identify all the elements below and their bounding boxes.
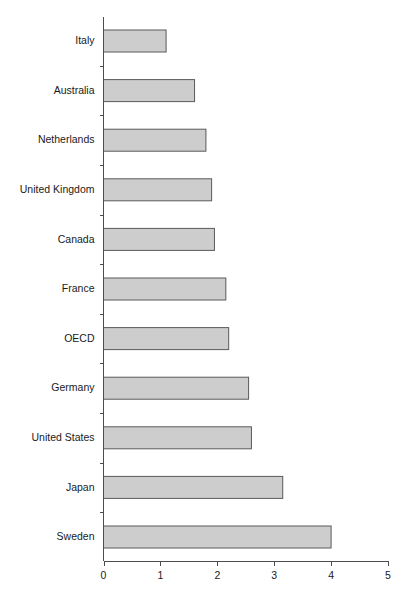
category-label-united-states: United States [31,431,94,443]
bar-japan [104,476,283,498]
bar-united-kingdom [104,179,212,201]
bars-group [104,30,332,548]
x-axis-tick-labels: 012345 [101,569,392,581]
category-label-italy: Italy [75,34,95,46]
x-tick-label-5: 5 [385,569,391,581]
bar-france [104,278,226,300]
chart-canvas: ItalyAustraliaNetherlandsUnited KingdomC… [0,0,408,595]
category-label-united-kingdom: United Kingdom [20,183,95,195]
bar-sweden [104,526,332,548]
bar-netherlands [104,129,206,151]
x-tick-label-4: 4 [328,569,334,581]
category-label-netherlands: Netherlands [38,133,95,145]
y-axis-tick-marks [100,67,104,513]
x-tick-label-1: 1 [157,569,163,581]
bar-italy [104,30,167,52]
bar-united-states [104,427,252,449]
bar-germany [104,377,249,399]
category-labels-group: ItalyAustraliaNetherlandsUnited KingdomC… [20,34,95,542]
category-label-canada: Canada [58,233,95,245]
category-label-oecd: OECD [64,332,95,344]
category-label-sweden: Sweden [57,530,95,542]
x-tick-label-0: 0 [101,569,107,581]
x-tick-label-3: 3 [271,569,277,581]
bar-australia [104,80,195,102]
bar-canada [104,228,215,250]
category-label-japan: Japan [66,481,95,493]
category-label-germany: Germany [51,381,95,393]
bar-oecd [104,328,229,350]
category-label-france: France [62,282,95,294]
x-tick-label-2: 2 [214,569,220,581]
category-label-australia: Australia [54,84,95,96]
bar-chart-figure: ItalyAustraliaNetherlandsUnited KingdomC… [0,0,408,595]
x-axis-tick-marks [105,561,389,566]
